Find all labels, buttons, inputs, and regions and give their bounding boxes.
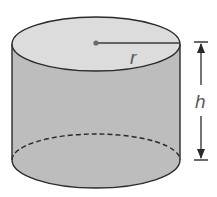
cylinder-diagram: r h bbox=[0, 0, 217, 197]
height-label: h bbox=[195, 91, 206, 112]
center-point bbox=[93, 40, 98, 45]
radius-label: r bbox=[130, 47, 137, 68]
arrowhead-up-icon bbox=[197, 43, 205, 53]
arrowhead-down-icon bbox=[197, 149, 205, 159]
